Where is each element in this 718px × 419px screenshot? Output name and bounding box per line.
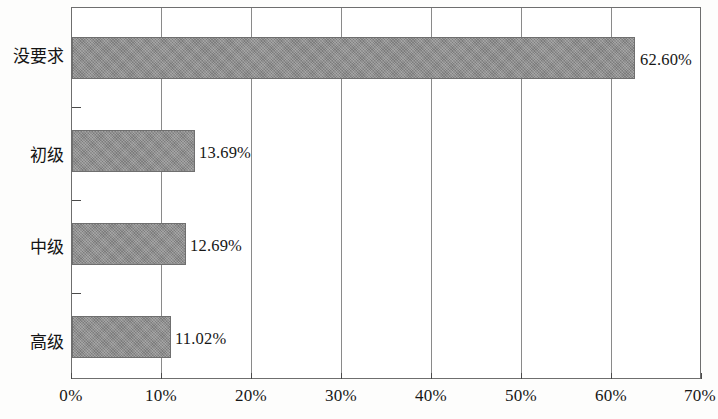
bar-1 <box>72 130 195 172</box>
x-axis-tick-label-6: 60% <box>595 386 627 406</box>
bar-2 <box>72 223 186 265</box>
x-axis-tick-label-4: 40% <box>415 386 447 406</box>
x-axis-tick-label-0: 0% <box>59 386 82 406</box>
bar-0 <box>72 37 635 79</box>
bar-value-label-1: 13.69% <box>199 143 251 163</box>
y-axis-tick-0 <box>72 107 81 108</box>
x-axis-tick-mark-2 <box>251 373 252 379</box>
x-axis-tick-mark-0 <box>71 373 72 379</box>
x-axis-tick-mark-5 <box>521 373 522 379</box>
x-axis-tick-mark-3 <box>341 373 342 379</box>
bar-value-label-0: 62.60% <box>640 50 692 70</box>
chart-page: 没要求 初级 中级 高级 62.60% 13.69% 12.69% 11.02%… <box>0 0 718 419</box>
x-axis-tick-mark-6 <box>611 373 612 379</box>
y-axis-category-label-1: 初级 <box>0 147 64 164</box>
x-axis-tick-mark-1 <box>161 373 162 379</box>
y-axis-category-label-3: 高级 <box>0 334 64 351</box>
x-axis-tick-label-3: 30% <box>325 386 357 406</box>
y-axis-category-label-0: 没要求 <box>0 48 64 65</box>
y-axis-tick-1 <box>72 200 81 201</box>
y-axis-category-label-2: 中级 <box>0 239 64 256</box>
bar-value-label-3: 11.02% <box>175 329 226 349</box>
bar-3 <box>72 316 171 358</box>
plot-area: 62.60% 13.69% 12.69% 11.02% <box>71 7 701 379</box>
x-axis-tick-label-5: 50% <box>505 386 537 406</box>
y-axis-tick-2 <box>72 293 81 294</box>
bar-value-label-2: 12.69% <box>190 236 242 256</box>
x-axis-tick-mark-7 <box>701 373 702 379</box>
x-axis-tick-label-1: 10% <box>145 386 177 406</box>
x-axis-tick-label-7: 70% <box>684 386 716 406</box>
x-axis-tick-label-2: 20% <box>235 386 267 406</box>
x-axis-tick-mark-4 <box>431 373 432 379</box>
